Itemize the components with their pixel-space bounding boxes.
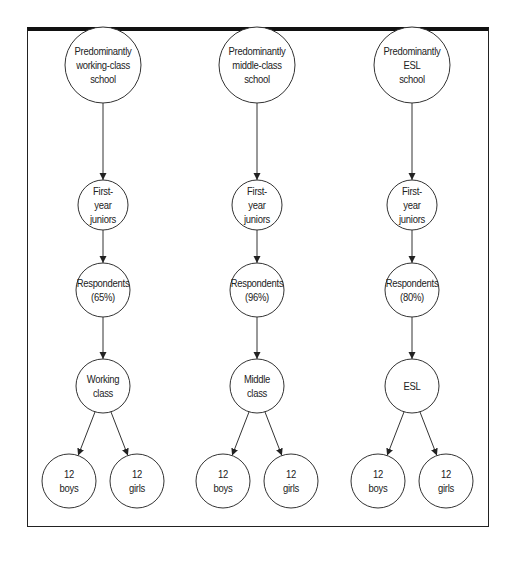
arrow-connector bbox=[110, 409, 128, 456]
arrow-connector bbox=[78, 409, 96, 456]
arrow-connector bbox=[264, 409, 282, 456]
node-label-middle-class-school: Predominantly middle-class school bbox=[216, 27, 299, 103]
node-label-middle-class-group: Middle class bbox=[226, 359, 289, 413]
node-label-middle-class-respondents: Respondents (96%) bbox=[226, 263, 289, 317]
arrow-connector bbox=[419, 409, 437, 456]
arrow-connector bbox=[387, 409, 405, 456]
node-label-middle-class-girls: 12 girls bbox=[260, 454, 323, 508]
node-label-esl-juniors: First- year juniors bbox=[382, 180, 441, 230]
node-label-working-class-juniors: First- year juniors bbox=[73, 180, 132, 230]
node-label-working-class-girls: 12 girls bbox=[106, 454, 169, 508]
node-label-working-class-school: Predominantly working-class school bbox=[62, 27, 145, 103]
arrow-connector bbox=[232, 409, 250, 456]
node-label-esl-respondents: Respondents (80%) bbox=[381, 263, 444, 317]
node-label-esl-girls: 12 girls bbox=[415, 454, 478, 508]
node-label-working-class-group: Working class bbox=[72, 359, 135, 413]
node-label-esl-group: ESL bbox=[381, 359, 444, 413]
node-label-working-class-boys: 12 boys bbox=[38, 454, 101, 508]
node-label-esl-school: Predominantly ESL school bbox=[371, 27, 454, 103]
node-label-esl-boys: 12 boys bbox=[347, 454, 410, 508]
node-label-working-class-respondents: Respondents (65%) bbox=[72, 263, 135, 317]
node-label-middle-class-boys: 12 boys bbox=[192, 454, 255, 508]
node-label-middle-class-juniors: First- year juniors bbox=[227, 180, 286, 230]
